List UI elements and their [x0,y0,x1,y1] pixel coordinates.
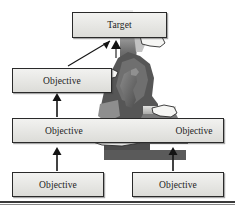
node-objective-bottom-right[interactable]: Objective [132,172,224,197]
node-objective-mid-label: Objective [45,126,83,136]
node-objective-bottom-left[interactable]: Objective [12,172,104,197]
node-target[interactable]: Target [72,12,167,38]
node-objective-mid-right-label: Objective [176,126,213,136]
connector-obj-l2-to-target [68,41,110,66]
node-objective-bottom-left-label: Objective [39,180,77,190]
bottom-divider [0,201,235,205]
node-target-label: Target [107,20,132,30]
node-objective-level2-label: Objective [43,76,81,86]
diagram-canvas: Target Objective Objective Objective Obj… [0,0,235,209]
node-objective-bottom-right-label: Objective [159,180,197,190]
divider-line-secondary [0,204,235,205]
divider-line-primary [0,201,235,203]
node-objective-mid-right[interactable]: Objective [164,118,224,143]
node-objective-level2[interactable]: Objective [12,68,112,93]
